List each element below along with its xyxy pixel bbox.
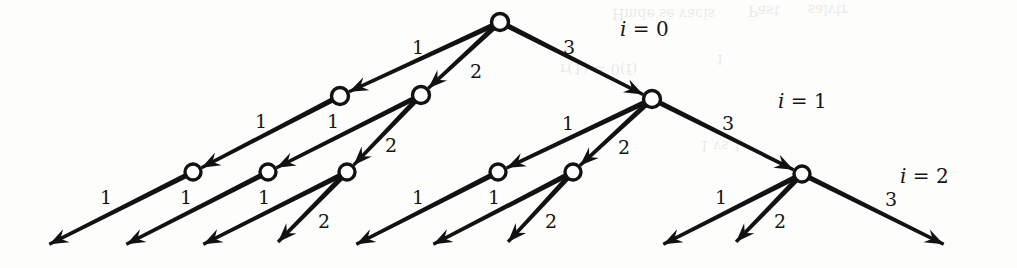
- edge-label: 3: [885, 190, 897, 209]
- edge-label: 1: [412, 188, 424, 207]
- level-label-i2: i = 2: [900, 166, 949, 186]
- tree-edge: [427, 26, 495, 89]
- edge-label: 1: [180, 188, 192, 207]
- edge-label: 1: [412, 38, 424, 57]
- tree-edge: [276, 97, 414, 170]
- tree-edge: [49, 173, 187, 245]
- tree-node: [339, 164, 355, 180]
- tree-node: [565, 164, 581, 180]
- edge-label: 2: [385, 136, 397, 155]
- tree-node: [490, 164, 506, 180]
- edge-label: 2: [318, 212, 330, 231]
- tree-edge: [579, 103, 647, 167]
- edge-label: 2: [774, 212, 786, 231]
- edge-layer: [49, 23, 945, 245]
- tree-edge: [506, 101, 645, 170]
- tree-edge: [507, 176, 569, 243]
- edge-label: 2: [545, 212, 557, 231]
- node-layer: [185, 14, 810, 183]
- tree-edge: [277, 176, 343, 243]
- edge-label: 2: [618, 138, 630, 157]
- edge-label: 3: [722, 114, 734, 133]
- edge-label: 1: [255, 112, 267, 131]
- tree-node: [260, 164, 276, 180]
- tree-node: [644, 91, 661, 108]
- edge-label: 3: [563, 38, 575, 57]
- tree-edge: [201, 98, 334, 169]
- tree-edge: [352, 100, 416, 167]
- edge-label: 1: [488, 188, 500, 207]
- edge-label: 1: [100, 188, 112, 207]
- figure-canvas: PastsalvtrHmde se vacis1r(1) = 0(f)1 vs …: [0, 0, 1017, 268]
- tree-node: [413, 87, 430, 104]
- tree-edge: [356, 174, 492, 246]
- level-label-i1: i = 1: [778, 91, 827, 111]
- tree-node: [332, 88, 349, 105]
- edge-label: 2: [470, 62, 482, 81]
- edge-label: 1: [562, 114, 574, 133]
- tree-edge: [735, 178, 798, 243]
- tree-node: [492, 14, 509, 31]
- edge-label: 1: [258, 188, 270, 207]
- tree-node: [185, 164, 201, 180]
- tree-diagram: [0, 0, 1017, 268]
- level-label-i0: i = 0: [620, 19, 669, 39]
- tree-node: [794, 166, 810, 182]
- edge-label: 1: [327, 112, 339, 131]
- edge-label: 1: [715, 188, 727, 207]
- tree-edge: [348, 23, 493, 93]
- tree-edge: [126, 174, 262, 246]
